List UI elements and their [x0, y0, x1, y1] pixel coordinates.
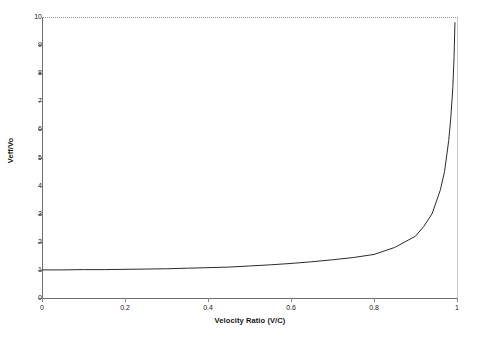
x-axis-title: Velocity Ratio (V/C)	[42, 316, 458, 325]
x-tick-label: 0.4	[193, 304, 223, 312]
x-axis-line	[42, 298, 458, 299]
x-tick-mark	[208, 298, 209, 302]
x-tick-mark	[374, 298, 375, 302]
x-tick-mark	[291, 298, 292, 302]
x-tick-label: 0.2	[110, 304, 140, 312]
x-tick-label: 1	[442, 304, 472, 312]
data-curve	[42, 17, 457, 298]
plot-frame-right	[457, 17, 458, 299]
x-tick-mark	[42, 298, 43, 302]
y-tick-label: 10	[20, 13, 42, 20]
y-axis-title: Veff/Vo	[6, 127, 15, 175]
x-tick-mark	[457, 298, 458, 302]
x-tick-mark	[125, 298, 126, 302]
x-tick-label: 0	[27, 304, 57, 312]
chart-container: 012345678910 00.20.40.60.81 Veff/Vo Velo…	[0, 0, 480, 337]
x-tick-label: 0.8	[359, 304, 389, 312]
x-tick-label: 0.6	[276, 304, 306, 312]
